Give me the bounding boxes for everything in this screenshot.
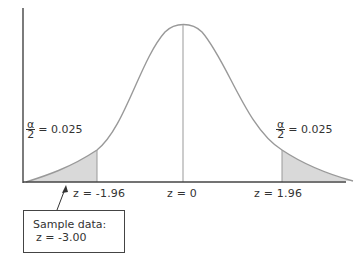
bell-curve: [26, 25, 353, 183]
left-alpha-label: α 2 = 0.025: [26, 120, 82, 139]
left-alpha-value: = 0.025: [38, 123, 82, 136]
right-alpha-value: = 0.025: [288, 123, 332, 136]
left-alpha-denominator: 2: [27, 130, 34, 139]
right-alpha-label: α 2 = 0.025: [276, 120, 332, 139]
callout-line-1: Sample data:: [33, 218, 124, 231]
sample-data-callout: Sample data: z = -3.00: [23, 210, 125, 253]
right-alpha-denominator: 2: [277, 130, 284, 139]
left-tail-shade: [26, 150, 97, 182]
z-left-label: z = -1.96: [73, 187, 125, 200]
z-right-label: z = 1.96: [254, 187, 302, 200]
arrow-head-icon: [62, 185, 68, 193]
callout-line-2: z = -3.00: [33, 231, 124, 244]
right-tail-shade: [282, 150, 353, 181]
z-center-label: z = 0: [167, 187, 197, 200]
